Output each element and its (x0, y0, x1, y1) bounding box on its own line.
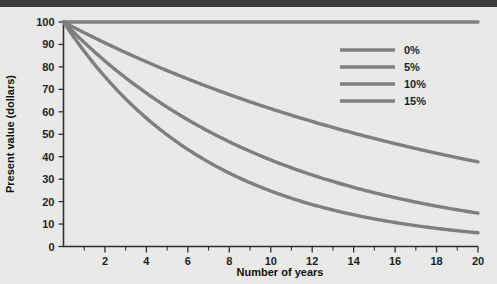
axes-group (59, 22, 479, 253)
chart-legend: 0%5%10%15% (340, 44, 426, 107)
y-tick-label-60: 60 (42, 106, 54, 118)
x-tick-label-12: 12 (306, 255, 318, 267)
y-tick-label-100: 100 (36, 16, 54, 28)
x-tick-labels: 2468101214161820 (102, 255, 484, 267)
y-tick-label-90: 90 (42, 38, 54, 50)
y-tick-label-80: 80 (42, 61, 54, 73)
curve-5pct (64, 22, 479, 162)
y-tick-label-30: 30 (42, 173, 54, 185)
legend-label-15pct: 15% (404, 95, 426, 107)
x-tick-label-14: 14 (348, 255, 361, 267)
y-tick-labels: 0102030405060708090100 (36, 16, 54, 253)
y-tick-label-70: 70 (42, 83, 54, 95)
x-tick-label-16: 16 (389, 255, 401, 267)
legend-label-0pct: 0% (404, 44, 420, 56)
y-tick-label-10: 10 (42, 218, 54, 230)
y-tick-label-0: 0 (48, 241, 54, 253)
x-tick-label-20: 20 (472, 255, 484, 267)
chart-plot-area: 2468101214161820 0102030405060708090100 … (0, 0, 497, 284)
x-tick-label-6: 6 (185, 255, 191, 267)
y-axis-title: Present value (dollars) (4, 75, 16, 193)
legend-label-5pct: 5% (404, 61, 420, 73)
y-tick-label-20: 20 (42, 196, 54, 208)
x-tick-label-4: 4 (143, 255, 150, 267)
present-value-chart-figure: 2468101214161820 0102030405060708090100 … (0, 0, 497, 284)
x-tick-label-2: 2 (102, 255, 108, 267)
legend-label-10pct: 10% (404, 78, 426, 90)
x-axis-title: Number of years (237, 266, 324, 278)
y-tick-label-40: 40 (42, 151, 54, 163)
x-tick-label-10: 10 (265, 255, 277, 267)
x-tick-label-8: 8 (226, 255, 232, 267)
y-tick-label-50: 50 (42, 128, 54, 140)
x-tick-label-18: 18 (430, 255, 442, 267)
